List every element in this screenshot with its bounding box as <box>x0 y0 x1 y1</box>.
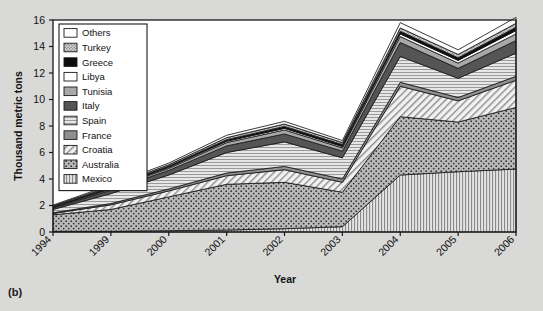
y-tick-label: 2 <box>39 199 45 211</box>
y-tick-label: 4 <box>39 173 45 185</box>
legend-swatch-spain <box>64 116 77 125</box>
legend-swatch-greece <box>64 58 77 67</box>
legend-swatch-tunisia <box>64 87 77 96</box>
y-axis-title: Thousand metric tons <box>12 71 24 181</box>
figure-panel: 0246810121416 19941999200020012002200320… <box>0 0 543 311</box>
legend-swatch-libya <box>64 72 77 81</box>
legend-label-mexico: Mexico <box>82 173 112 184</box>
y-tick-label: 8 <box>39 120 45 132</box>
y-tick-label: 10 <box>33 93 45 105</box>
stacked-area-chart: 0246810121416 19941999200020012002200320… <box>0 0 543 311</box>
x-axis-title: Year <box>274 273 296 285</box>
legend-label-tunisia: Tunisia <box>82 86 113 97</box>
legend-label-croatia: Croatia <box>82 144 113 155</box>
legend-swatch-australia <box>64 160 77 169</box>
y-tick-label: 16 <box>33 14 45 26</box>
legend-label-australia: Australia <box>82 159 120 170</box>
legend-label-france: France <box>82 130 112 141</box>
y-tick-label: 12 <box>33 67 45 79</box>
y-tick-label: 6 <box>39 146 45 158</box>
legend-label-others: Others <box>82 27 111 38</box>
legend-swatch-france <box>64 131 77 140</box>
legend-swatch-turkey <box>64 43 77 52</box>
legend-swatch-mexico <box>64 175 77 184</box>
legend-label-libya: Libya <box>82 71 105 82</box>
panel-label: (b) <box>8 286 22 298</box>
legend-label-italy: Italy <box>82 100 100 111</box>
chart-legend: OthersTurkeyGreeceLibyaTunisiaItalySpain… <box>59 24 147 191</box>
legend-label-spain: Spain <box>82 115 106 126</box>
legend-swatch-italy <box>64 102 77 111</box>
legend-label-greece: Greece <box>82 57 113 68</box>
y-tick-label: 14 <box>33 40 45 52</box>
legend-swatch-croatia <box>64 145 77 154</box>
legend-label-turkey: Turkey <box>82 42 111 53</box>
legend-swatch-others <box>64 29 77 38</box>
